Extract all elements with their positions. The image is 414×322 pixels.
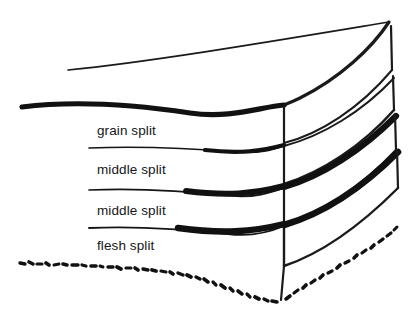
bottom-front-corner-edge [281, 266, 284, 300]
top-slab-side-face-outer [284, 22, 389, 105]
grain-split-right-rib [391, 26, 392, 70]
layer-label-grain-split: grain split [97, 124, 156, 138]
top-surface-thin-edge [68, 22, 389, 70]
middle-split-2-right-rib [395, 114, 396, 150]
flesh-side-dotted-edge-left [20, 262, 277, 302]
hide-illustration [0, 0, 414, 322]
layer-label-middle-split-1: middle split [97, 163, 166, 177]
flesh-side-dotted-edge-right [286, 227, 397, 299]
layer-label-flesh-split: flesh split [97, 239, 154, 253]
middle-split-1-right-rib [393, 76, 394, 110]
separator-middle-flesh-thick [178, 224, 284, 231]
grain-split-top-edge [22, 104, 284, 115]
separator-grain-middle-thick [205, 145, 284, 152]
layer-label-middle-split-2: middle split [97, 204, 166, 218]
flesh-split-right-rib [397, 150, 398, 188]
leather-splits-diagram: grain split middle split middle split fl… [0, 0, 414, 322]
